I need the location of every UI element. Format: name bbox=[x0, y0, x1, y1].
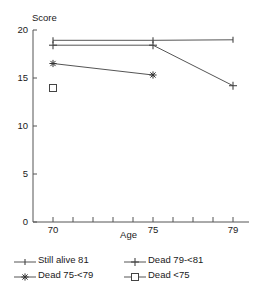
y-tick-label-5: 5 bbox=[6, 168, 28, 179]
y-tick-label-0: 0 bbox=[6, 216, 28, 227]
series-dead-79-81 bbox=[49, 41, 237, 89]
series-dead-under-75 bbox=[50, 85, 57, 92]
legend-item-dead-under-75[interactable]: Dead <75 bbox=[122, 267, 242, 282]
marker-point bbox=[149, 71, 156, 78]
legend-item-dead-79-81[interactable]: Dead 79-<81 bbox=[122, 252, 242, 267]
y-tick-label-20: 20 bbox=[6, 24, 28, 35]
series-line bbox=[53, 40, 233, 41]
series-line bbox=[53, 64, 153, 76]
x-axis-ticks bbox=[53, 217, 233, 222]
marker-point bbox=[50, 85, 57, 92]
legend-label: Dead <75 bbox=[148, 269, 189, 281]
legend-item-still-alive-81[interactable]: Still alive 81 bbox=[12, 252, 122, 267]
legend-marker-open-square-icon bbox=[122, 269, 148, 281]
x-axis-title: Age bbox=[0, 229, 257, 240]
y-tick-label-15: 15 bbox=[6, 72, 28, 83]
series-line bbox=[53, 45, 233, 85]
legend-label: Dead 79-<81 bbox=[148, 254, 203, 266]
legend-marker-plus-small-icon bbox=[12, 254, 38, 266]
y-axis-title: Score bbox=[32, 12, 57, 23]
legend-row-1: Still alive 81 Dead 79-<81 bbox=[12, 252, 248, 267]
chart-canvas bbox=[0, 0, 257, 248]
chart-legend: Still alive 81 Dead 79-<81 bbox=[12, 252, 248, 292]
legend-label: Dead 75-<79 bbox=[38, 269, 93, 281]
legend-label: Still alive 81 bbox=[38, 254, 89, 266]
y-axis-ticks bbox=[33, 30, 37, 222]
legend-row-2: Dead 75-<79 Dead <75 bbox=[12, 267, 248, 282]
axis-lines bbox=[33, 30, 249, 222]
legend-marker-plus-icon bbox=[122, 254, 148, 266]
legend-item-dead-75-79[interactable]: Dead 75-<79 bbox=[12, 267, 122, 282]
series-still-alive-81 bbox=[53, 37, 233, 44]
chart-figure: Score 20 15 10 5 0 70 75 79 Age Still al… bbox=[0, 0, 257, 296]
series-dead-75-79 bbox=[49, 60, 156, 79]
marker-point bbox=[49, 60, 56, 67]
y-tick-label-10: 10 bbox=[6, 120, 28, 131]
legend-marker-asterisk-icon bbox=[12, 269, 38, 281]
plot-area: Score 20 15 10 5 0 70 75 79 Age bbox=[0, 0, 257, 248]
series-markers bbox=[49, 41, 237, 89]
